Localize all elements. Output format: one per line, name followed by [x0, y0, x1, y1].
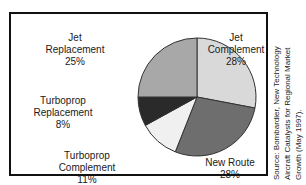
source-note: Source: Bombardier, New Technology Aircr…: [271, 0, 306, 180]
slice-label-name-line-1: New Route: [187, 157, 273, 169]
slice-label-percent: 11%: [33, 174, 141, 185]
slice-label-name-line-1: Jet: [27, 32, 123, 44]
pie-chart-figure: Jet Replacement 25% Jet Complement 28% N…: [0, 0, 306, 185]
slice-label-percent: 28%: [193, 56, 279, 68]
slice-label-percent: 25%: [27, 56, 123, 68]
slice-label-name-line-1: Jet: [193, 32, 279, 44]
slice-label-jet-complement: Jet Complement 28%: [193, 32, 279, 68]
slice-label-name-line-2: Complement: [193, 44, 279, 56]
slice-label-turboprop-complement: Turboprop Complement 11%: [33, 150, 141, 185]
slice-label-name-line-2: Replacement: [13, 107, 113, 119]
slice-label-percent: 8%: [13, 119, 113, 131]
slice-label-percent: 28%: [187, 169, 273, 181]
slice-label-name-line-1: Turboprop: [33, 150, 141, 162]
source-note-line-1: Source: Bombardier, New Technology: [271, 0, 282, 180]
slice-label-turboprop-replacement: Turboprop Replacement 8%: [13, 95, 113, 131]
slice-label-jet-replacement: Jet Replacement 25%: [27, 32, 123, 68]
slice-label-name-line-1: Turboprop: [13, 95, 113, 107]
slice-label-name-line-2: Complement: [33, 162, 141, 174]
slice-label-name-line-2: Replacement: [27, 44, 123, 56]
slice-label-new-route: New Route 28%: [187, 157, 273, 181]
source-note-line-2: Aircraft Catalysts for Regional Market: [282, 0, 293, 180]
pie-slice-jet-replacement: [138, 38, 197, 97]
source-note-line-3: Growth (May 1997).: [293, 0, 304, 180]
chart-frame: Jet Replacement 25% Jet Complement 28% N…: [9, 12, 268, 176]
